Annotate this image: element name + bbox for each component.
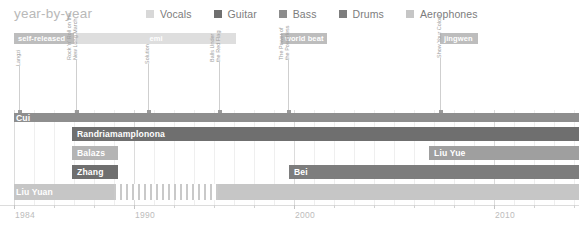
legend-label: Guitar [228,8,257,20]
record-label-text: emi [149,34,162,43]
album-marker-band: LangziRock 'n' Roll on theNew Long March… [0,48,579,112]
axis-tick [534,205,535,208]
album-title-line: Langzi [15,50,21,66]
legend: VocalsGuitarBassDrumsAerophones [146,8,500,20]
album-marker[interactable]: Langzi [19,66,20,112]
track-label: Bei [294,167,308,177]
axis-tick [294,205,295,209]
track-label: Liu Yuan [16,187,53,197]
track-label: Balazs [77,148,105,158]
album-marker[interactable]: Show Your Colour [440,58,441,112]
track-label: Liu Yue [434,148,465,158]
axis-tick [14,205,15,209]
album-title: Rock 'n' Roll on theNew Long March [66,13,78,60]
track-segment[interactable] [114,184,218,200]
axis-tick [334,205,335,208]
timeline-track[interactable]: Cui [0,113,579,122]
record-label-text: jingwen [444,34,473,43]
axis-tick [54,205,55,208]
album-title-line: New Long March [72,13,78,60]
timeline-track[interactable]: Liu Yuan [0,184,579,200]
axis-tick-label: 2000 [295,210,315,220]
timeline-track[interactable]: Randriamamplonona [0,127,579,141]
axis-tick [254,205,255,208]
axis-tick [174,205,175,208]
axis-tick [374,205,375,208]
track-segment[interactable] [14,113,579,122]
track-label: Zhang [77,167,104,177]
legend-swatch-icon [339,10,347,18]
axis-tick [414,205,415,208]
album-title-line: the Red Flag [215,31,221,62]
album-title-line: Solution [144,44,150,64]
axis-tick [94,205,95,208]
axis-line [0,205,579,206]
album-title-line: Show Your Colour [436,14,442,58]
axis-tick [494,205,495,209]
record-label-text: self-released [18,34,65,43]
legend-item-guitar[interactable]: Guitar [214,8,257,20]
legend-swatch-icon [406,10,414,18]
axis-tick-label: 2010 [495,210,515,220]
axis-tick [454,205,455,208]
legend-item-drums[interactable]: Drums [339,8,384,20]
album-title: Solution [144,44,150,64]
album-title-line: the Powerless [284,25,290,60]
axis-tick [574,205,575,208]
album-title: Show Your Colour [436,14,442,58]
track-label: Cui [16,113,30,123]
legend-swatch-icon [214,10,222,18]
page-title: year-by-year [14,6,92,21]
album-marker[interactable]: Rock 'n' Roll on theNew Long March [76,60,77,112]
legend-label: Bass [293,8,317,20]
album-title: The Power ofthe Powerless [278,25,290,60]
axis-tick [214,205,215,208]
album-title: Balls Underthe Red Flag [209,31,221,62]
record-label-text: world beat [285,34,324,43]
track-segment[interactable] [218,184,579,200]
track-segment[interactable] [289,165,579,179]
timeline-plot: CuiRandriamamplononaBalazsLiu YueZhangBe… [0,110,579,206]
legend-swatch-icon [279,10,287,18]
legend-label: Vocals [160,8,192,20]
axis-tick [134,205,135,209]
legend-label: Aerophones [420,8,478,20]
record-label-bar[interactable]: jingwen [440,33,478,44]
axis-tick-label: 1990 [135,210,155,220]
album-title: Langzi [15,50,21,66]
axis-tick-label: 1984 [15,210,35,220]
x-axis: 1984199020002010 [0,205,579,234]
record-label-bar[interactable]: self-released [14,33,74,44]
legend-item-vocals[interactable]: Vocals [146,8,192,20]
album-marker[interactable]: Solution [148,64,149,112]
legend-swatch-icon [146,10,154,18]
track-label: Randriamamplonona [77,129,165,139]
album-marker[interactable]: The Power ofthe Powerless [288,60,289,112]
legend-label: Drums [353,8,384,20]
album-marker[interactable]: Balls Underthe Red Flag [219,62,220,112]
legend-item-bass[interactable]: Bass [279,8,317,20]
